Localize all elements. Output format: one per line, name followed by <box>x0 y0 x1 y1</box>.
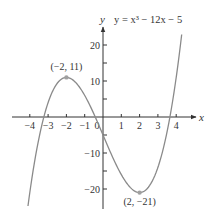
y-tick-label: −10 <box>84 148 100 159</box>
point-label: (2, −21) <box>123 196 155 208</box>
x-tick-label: −4 <box>24 120 35 131</box>
x-tick-label: −3 <box>43 120 54 131</box>
y-tick-label: 10 <box>90 76 100 87</box>
cubic-function-chart: x y −4−3−2−101234 2010−10−20 y = x³ − 12… <box>0 0 216 221</box>
x-tick-label: 2 <box>137 120 142 131</box>
x-tick-label: −1 <box>79 120 90 131</box>
x-tick-label: 3 <box>155 120 160 131</box>
y-tick-label: 20 <box>90 40 100 51</box>
y-tick-label: −20 <box>84 184 100 195</box>
x-tick-label: −2 <box>61 120 72 131</box>
y-axis-label: y <box>99 13 105 25</box>
extremum-point <box>64 75 68 79</box>
x-axis-label: x <box>198 111 204 123</box>
extremum-point <box>137 190 141 194</box>
equation-label: y = x³ − 12x − 5 <box>114 14 182 25</box>
x-tick-label: 4 <box>174 120 179 131</box>
x-tick-label: 1 <box>119 120 124 131</box>
point-label: (−2, 11) <box>50 61 82 73</box>
